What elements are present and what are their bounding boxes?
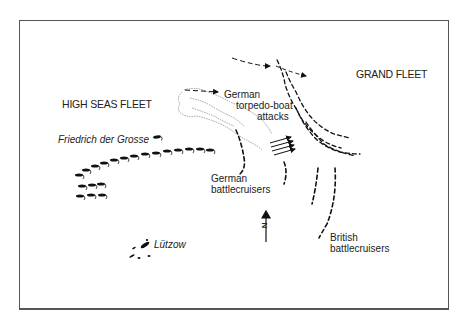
- german-battlecruisers-label-line1: German: [211, 173, 247, 184]
- lutzow-label: Lützow: [154, 239, 186, 250]
- high-seas-fleet-label: HIGH SEAS FLEET: [62, 99, 152, 110]
- torpedo-attack-label-line2: torpedo-boat: [236, 100, 293, 111]
- british-battlecruisers-label-line2: battlecruisers: [330, 243, 389, 254]
- torpedo-attack-label-line3: attacks: [257, 111, 289, 122]
- battle-map-graphic: [0, 0, 468, 325]
- lutzow-ships: [129, 239, 151, 259]
- british-battlecruisers: [312, 168, 335, 238]
- grand-fleet-label: GRAND FLEET: [356, 69, 427, 80]
- torpedo-attack-label-line1: German: [224, 89, 260, 100]
- british-battlecruisers-label-line1: British: [330, 232, 358, 243]
- friedrich-der-grosse-label: Friedrich der Grosse: [58, 134, 149, 145]
- north-label: N: [259, 223, 270, 229]
- german-battlecruisers-label-line2: battlecruisers: [211, 184, 270, 195]
